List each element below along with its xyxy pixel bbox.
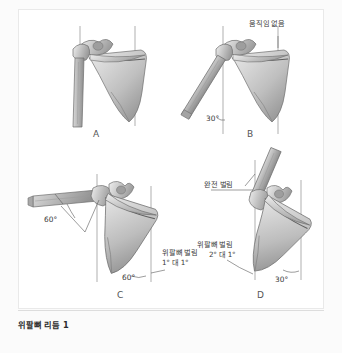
full-abduction-pointer — [245, 174, 255, 186]
angle-arc-30 — [283, 270, 299, 272]
figure-caption: 위팔뼈 리듬 1 — [18, 320, 69, 330]
angle-arc-60-upper — [67, 204, 75, 218]
figure-card: A — [18, 9, 324, 309]
humerus-shaft — [33, 190, 98, 207]
panel-a-illustration — [49, 22, 169, 147]
scapula-rotated-group — [80, 190, 160, 281]
panel-b: 움직임 없음 30° B — [179, 22, 314, 147]
panel-b-letter: B — [247, 129, 253, 139]
angle-label-30: 30° — [206, 114, 219, 123]
glenoid-shadow — [93, 42, 103, 50]
rhythm-label-leader — [151, 270, 165, 273]
caption-divider — [18, 310, 324, 311]
humerus-abducted-group — [181, 54, 226, 120]
humerus-shaft — [181, 54, 225, 119]
panel-d: 완전 벌림 위팔뼈 벌림 2° 대 1° 30° D — [191, 152, 321, 300]
panel-c-illustration — [25, 160, 190, 300]
no-motion-label: 움직임 없음 — [249, 19, 285, 28]
panel-d-letter: D — [257, 290, 264, 300]
humerus-shading — [187, 60, 219, 114]
panel-a: A — [49, 22, 169, 147]
full-abduction-label: 완전 벌림 — [204, 180, 233, 189]
rhythm-label-line2: 1° 대 1° — [162, 258, 189, 267]
rhythm-label-line1: 위팔뼈 벌림 — [197, 240, 233, 249]
panel-c: 60° 60° 위팔뼈 벌림 1° 대 1° C — [25, 160, 190, 300]
rhythm-label-leader — [227, 260, 253, 274]
caption-bar: 위팔뼈 리듬 1 — [18, 313, 324, 333]
panel-c-letter: C — [117, 290, 123, 300]
panel-a-letter: A — [93, 129, 99, 139]
angle-construction-line-1 — [61, 206, 85, 232]
angle-label-30: 30° — [275, 275, 288, 284]
glenoid-shadow — [117, 186, 126, 194]
rhythm-label-line2: 2° 대 1° — [209, 250, 236, 259]
humerus-distal-end — [28, 196, 33, 207]
figure-page: A — [0, 0, 342, 353]
glenoid-shadow — [275, 190, 284, 198]
panel-d-illustration — [191, 152, 321, 300]
angle-label-60-scapula: 60° — [122, 273, 135, 282]
angle-label-60-humerus: 60° — [44, 215, 57, 224]
glenoid-shadow — [236, 42, 246, 50]
